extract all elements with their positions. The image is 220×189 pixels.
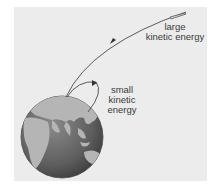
small-kinetic-energy-label: small kinetic energy (102, 85, 142, 115)
earth-globe (21, 95, 103, 178)
trajectory-arrowhead (110, 38, 116, 44)
small-trajectory-arrowhead (92, 80, 97, 86)
large-kinetic-energy-label: large kinetic energy (138, 22, 212, 42)
label-line: kinetic energy (138, 32, 212, 42)
label-line: energy (102, 105, 142, 115)
projectile-icon (170, 13, 186, 19)
